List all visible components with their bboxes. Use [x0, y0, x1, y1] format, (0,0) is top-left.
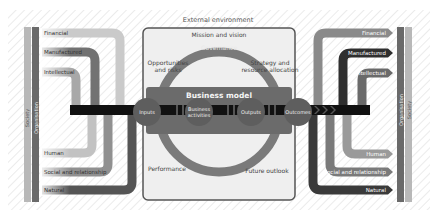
- right-label-financial: Financial: [362, 30, 387, 36]
- left-society-bar: Society: [24, 27, 31, 202]
- left-organisation-bar: Organisation: [32, 27, 40, 202]
- svg-text:Inputs: Inputs: [139, 109, 155, 116]
- business-activities-node: Business activities: [185, 98, 213, 126]
- left-label-financial: Financial: [44, 30, 69, 36]
- right-label-social: Social and relationship: [324, 169, 387, 176]
- strategy-label-2: resource allocation: [241, 66, 298, 73]
- left-label-intellectual: Intellectual: [44, 69, 75, 75]
- right-organisation-bar: Organisation: [397, 27, 405, 202]
- right-society-label: Society: [406, 101, 413, 119]
- svg-text:activities: activities: [188, 112, 211, 118]
- svg-text:Outputs: Outputs: [241, 109, 261, 116]
- outputs-node: Outputs: [237, 98, 265, 126]
- left-label-natural: Natural: [44, 187, 65, 193]
- governance-label: Governance: [201, 44, 238, 51]
- right-label-intellectual: Intellectual: [355, 70, 386, 76]
- future-outlook-label: Future outlook: [245, 167, 289, 174]
- svg-text:Outcomes: Outcomes: [285, 109, 311, 115]
- right-label-natural: Natural: [366, 187, 387, 193]
- left-label-manufactured: Manufactured: [44, 49, 82, 55]
- opportunities-label-2: and risks: [154, 66, 181, 73]
- right-label-manufactured: Manufactured: [348, 50, 386, 56]
- outcomes-node: Outcomes: [284, 98, 312, 126]
- right-organisation-label: Organisation: [398, 94, 405, 126]
- mission-label: Mission and vision: [192, 31, 247, 38]
- external-environment-label: External environment: [183, 16, 254, 24]
- left-label-human: Human: [44, 150, 64, 156]
- performance-label: Performance: [148, 165, 186, 172]
- left-organisation-label: Organisation: [33, 102, 40, 134]
- inputs-node: Inputs: [133, 98, 161, 126]
- left-society-label: Society: [24, 109, 31, 127]
- left-label-social: Social and relationship: [44, 169, 107, 176]
- right-label-human: Human: [366, 151, 386, 157]
- right-society-bar: Society: [405, 27, 413, 202]
- value-creation-diagram: External environment Society Organisatio…: [0, 0, 437, 219]
